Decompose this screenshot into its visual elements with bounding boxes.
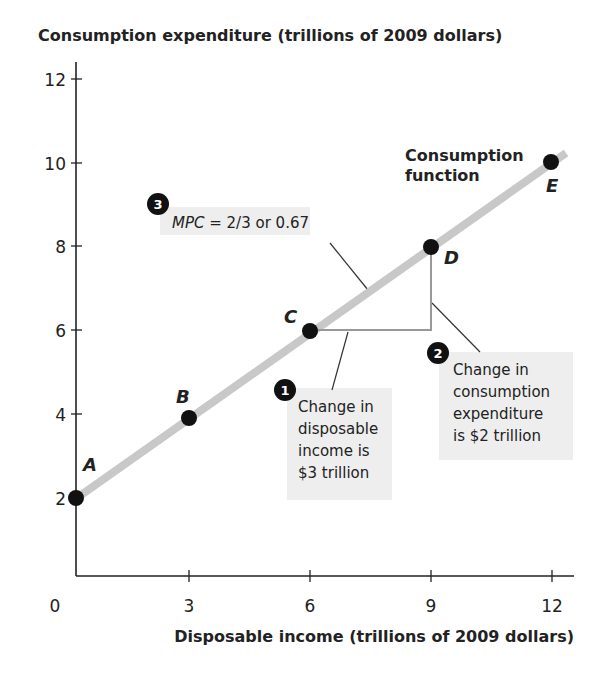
y-tick-12: 12 bbox=[44, 70, 66, 90]
income-change-line1: Change in bbox=[298, 398, 374, 416]
x-tick-9: 9 bbox=[426, 596, 437, 616]
x-tick-12: 12 bbox=[541, 596, 563, 616]
mpc-leader-line bbox=[330, 243, 368, 290]
point-b-label: B bbox=[176, 386, 190, 407]
badge-3-number: 3 bbox=[153, 197, 162, 212]
y-tick-4: 4 bbox=[55, 405, 66, 425]
y-tick-10: 10 bbox=[44, 154, 66, 174]
badge-2-number: 2 bbox=[433, 346, 442, 361]
x-tick-6: 6 bbox=[305, 596, 316, 616]
point-d-label: D bbox=[444, 247, 459, 268]
x-axis-title: Disposable income (trillions of 2009 dol… bbox=[174, 627, 574, 646]
mpc-rest: = 2/3 or 0.67 bbox=[204, 214, 309, 232]
point-b-marker bbox=[181, 410, 197, 426]
point-a-marker bbox=[68, 490, 84, 506]
consumption-change-line1: Change in bbox=[453, 361, 529, 379]
point-c-marker bbox=[302, 323, 318, 339]
mpc-italic: MPC bbox=[172, 214, 205, 232]
income-change-line2: disposable bbox=[298, 420, 378, 438]
curve-label-line2: function bbox=[405, 166, 480, 185]
consumption-change-line3: expenditure bbox=[453, 405, 543, 423]
point-e-label: E bbox=[546, 175, 559, 196]
curve-label-line1: Consumption bbox=[405, 146, 524, 165]
point-d-marker bbox=[423, 239, 439, 255]
badge-1-number: 1 bbox=[280, 383, 289, 398]
income-change-line3: income is bbox=[298, 442, 370, 460]
consumption-change-line2: consumption bbox=[453, 383, 550, 401]
x-tick-3: 3 bbox=[184, 596, 195, 616]
mpc-text: MPC = 2/3 or 0.67 bbox=[172, 214, 309, 232]
x-ticks: 0 3 6 9 12 bbox=[50, 570, 563, 616]
consumption-change-line4: is $2 trillion bbox=[453, 427, 541, 445]
y-tick-6: 6 bbox=[55, 321, 66, 341]
y-axis-title: Consumption expenditure (trillions of 20… bbox=[38, 26, 502, 45]
y-tick-2: 2 bbox=[55, 489, 66, 509]
consumption-function-chart: Consumption expenditure (trillions of 20… bbox=[0, 0, 609, 692]
x-tick-0: 0 bbox=[50, 596, 61, 616]
y-tick-8: 8 bbox=[55, 237, 66, 257]
income-change-line4: $3 trillion bbox=[298, 464, 369, 482]
point-e-marker bbox=[543, 154, 559, 170]
income-leader-line bbox=[332, 332, 348, 390]
point-a-label: A bbox=[81, 454, 97, 475]
point-c-label: C bbox=[284, 306, 298, 327]
